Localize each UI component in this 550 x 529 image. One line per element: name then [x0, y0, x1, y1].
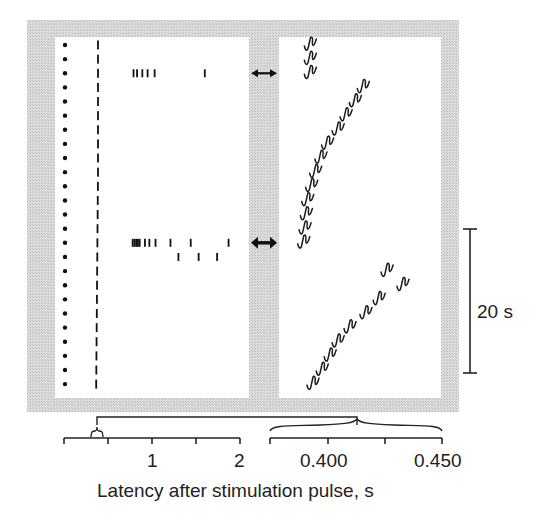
first-spike-tick [97, 168, 99, 177]
stimulus-dot [63, 255, 67, 259]
stimulus-dot [63, 241, 67, 245]
spike-tick [198, 253, 200, 261]
first-spike-tick [96, 281, 98, 290]
tick-label-2: 2 [234, 450, 245, 471]
stimulus-dot [63, 43, 67, 47]
stimulus-dot [63, 212, 67, 216]
stimulus-dot [63, 297, 67, 301]
right-x-axis [270, 438, 442, 444]
first-spike-tick [95, 365, 97, 374]
first-spike-tick [97, 224, 99, 233]
spike-tick [148, 239, 150, 247]
spike-tick [155, 239, 157, 247]
first-spike-tick [97, 210, 99, 219]
stimulus-dot [63, 325, 67, 329]
scale-bar-label: 20 s [477, 301, 513, 322]
first-spike-tick [97, 196, 99, 205]
stimulus-dot [63, 142, 67, 146]
stimulus-dot [63, 269, 67, 273]
spike-tick [134, 239, 136, 247]
first-spike-tick [97, 238, 99, 247]
spike-tick [147, 69, 149, 77]
spike-tick [133, 69, 135, 77]
spike-tick [228, 239, 230, 247]
first-spike-tick [97, 111, 99, 120]
stimulus-dot [63, 198, 67, 202]
first-spike-tick [96, 295, 98, 304]
stimulus-dot [63, 283, 67, 287]
stimulus-dot [63, 382, 67, 386]
spike-tick [178, 253, 180, 261]
spike-tick [190, 239, 192, 247]
tick-label-1: 1 [147, 450, 158, 471]
spike-tick [154, 69, 156, 77]
spike-tick [204, 69, 206, 77]
right-panel [279, 37, 441, 398]
first-spike-tick [96, 351, 98, 360]
x-axis-title: Latency after stimulation pulse, s [97, 480, 374, 501]
left-panel [55, 37, 249, 398]
first-spike-tick [97, 125, 99, 134]
spike-tick [216, 253, 218, 261]
first-spike-tick [97, 41, 99, 50]
stimulus-dot [63, 354, 67, 358]
first-spike-tick [96, 252, 98, 261]
first-spike-tick [97, 83, 99, 92]
first-spike-tick [96, 267, 98, 276]
first-spike-tick [97, 69, 99, 78]
spike-tick [170, 239, 172, 247]
spike-tick [132, 239, 134, 247]
stimulus-dot [63, 71, 67, 75]
scale-bar [463, 229, 477, 373]
stimulus-dot [63, 128, 67, 132]
stimulus-dot [63, 99, 67, 103]
spike-tick [141, 69, 143, 77]
first-spike-tick [95, 380, 97, 389]
first-spike-tick [97, 97, 99, 106]
first-spike-tick [97, 55, 99, 64]
stimulus-dot [63, 156, 67, 160]
stimulus-dot [63, 57, 67, 61]
stimulus-dot [63, 113, 67, 117]
first-spike-tick [96, 337, 98, 346]
left-x-axis [64, 438, 240, 444]
stimulus-dot [63, 226, 67, 230]
stimulus-dot [63, 340, 67, 344]
stimulus-dot [63, 184, 67, 188]
spike-tick [139, 239, 141, 247]
tick-label-0450: 0.450 [414, 450, 462, 471]
spike-tick [135, 239, 137, 247]
spike-tick [144, 239, 146, 247]
stimulus-dot [63, 311, 67, 315]
first-spike-tick [96, 323, 98, 332]
stimulus-dot [63, 170, 67, 174]
raster-figure: 20 s 1 2 0.400 0.450 Latency after stimu… [0, 0, 550, 529]
stimulus-dot [63, 85, 67, 89]
tick-label-0400: 0.400 [300, 450, 348, 471]
spike-tick [137, 239, 139, 247]
first-spike-tick [97, 139, 99, 148]
spike-tick [136, 69, 138, 77]
stimulus-dot [63, 368, 67, 372]
first-spike-tick [97, 154, 99, 163]
first-spike-tick [97, 182, 99, 191]
zoom-bracket [91, 417, 442, 437]
first-spike-tick [96, 309, 98, 318]
